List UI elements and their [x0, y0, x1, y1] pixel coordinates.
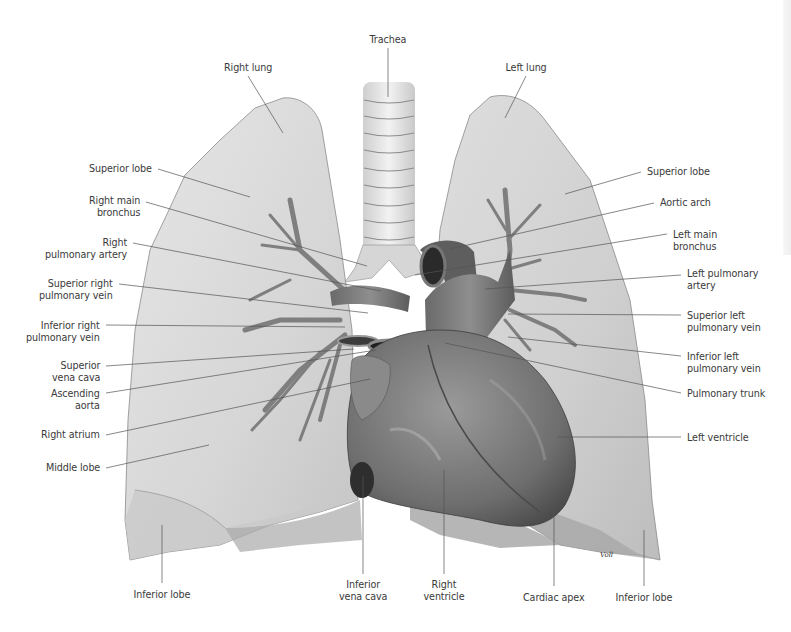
label-line: ventricle — [424, 591, 465, 603]
label-left-lung: Left lung — [506, 62, 547, 74]
anatomy-figure: Voll TracheaRight lungLeft lungSuperior … — [0, 0, 791, 632]
label-superior-left-pulmonary-vein: Superior leftpulmonary vein — [687, 310, 761, 334]
label-line: artery — [687, 280, 758, 292]
label-line: Pulmonary trunk — [687, 388, 765, 400]
label-right-pulmonary-artery: Rightpulmonary artery — [45, 237, 127, 261]
lungs-heart-illustration: Voll — [0, 0, 791, 632]
label-right-atrium: Right atrium — [41, 429, 100, 441]
label-line: Cardiac apex — [523, 592, 585, 604]
label-superior-lobe-right: Superior lobe — [89, 163, 152, 175]
label-line: Aortic arch — [660, 197, 711, 209]
artist-signature: Voll — [600, 551, 613, 559]
label-trachea: Trachea — [370, 34, 407, 46]
label-inferior-lobe-left: Inferior lobe — [616, 592, 673, 604]
label-inferior-lobe-right: Inferior lobe — [134, 589, 191, 601]
label-superior-right-pulmonary-vein: Superior rightpulmonary vein — [39, 278, 113, 302]
label-cardiac-apex: Cardiac apex — [523, 592, 585, 604]
label-line: Superior lobe — [647, 166, 710, 178]
label-line: Middle lobe — [46, 462, 100, 474]
label-inferior-right-pulmonary-vein: Inferior rightpulmonary vein — [26, 320, 100, 344]
label-pulmonary-trunk: Pulmonary trunk — [687, 388, 765, 400]
label-line: Left main — [673, 229, 717, 241]
label-line: Inferior lobe — [134, 589, 191, 601]
label-line: Superior lobe — [89, 163, 152, 175]
label-line: vena cava — [339, 591, 387, 603]
label-line: Superior — [52, 360, 100, 372]
label-line: Right atrium — [41, 429, 100, 441]
label-line: Right main — [89, 195, 140, 207]
label-line: pulmonary vein — [687, 322, 761, 334]
label-line: Left pulmonary — [687, 268, 758, 280]
trachea-shape — [345, 82, 430, 282]
label-line: Left lung — [506, 62, 547, 74]
label-line: Right — [45, 237, 127, 249]
label-line: pulmonary vein — [687, 363, 761, 375]
label-line: Ascending — [51, 388, 100, 400]
label-line: Left ventricle — [687, 432, 749, 444]
label-line: pulmonary artery — [45, 249, 127, 261]
label-aortic-arch: Aortic arch — [660, 197, 711, 209]
label-inferior-vena-cava: Inferiorvena cava — [339, 579, 387, 603]
label-line: Trachea — [370, 34, 407, 46]
label-superior-vena-cava: Superiorvena cava — [52, 360, 100, 384]
page-edge-strip — [783, 0, 791, 255]
label-inferior-left-pulmonary-vein: Inferior leftpulmonary vein — [687, 351, 761, 375]
label-line: bronchus — [89, 207, 140, 219]
label-line: Right lung — [224, 62, 272, 74]
label-left-main-bronchus: Left mainbronchus — [673, 229, 717, 253]
label-line: bronchus — [673, 241, 717, 253]
label-line: Inferior lobe — [616, 592, 673, 604]
label-line: aorta — [51, 400, 100, 412]
right-lung-shape — [125, 98, 362, 560]
label-line: Inferior right — [26, 320, 100, 332]
label-left-ventricle: Left ventricle — [687, 432, 749, 444]
label-ascending-aorta: Ascendingaorta — [51, 388, 100, 412]
label-line: Superior right — [39, 278, 113, 290]
label-line: vena cava — [52, 372, 100, 384]
label-line: Inferior left — [687, 351, 761, 363]
label-right-ventricle: Rightventricle — [424, 579, 465, 603]
label-line: Inferior — [339, 579, 387, 591]
label-line: Superior left — [687, 310, 761, 322]
label-line: Right — [424, 579, 465, 591]
label-middle-lobe: Middle lobe — [46, 462, 100, 474]
label-left-pulmonary-artery: Left pulmonaryartery — [687, 268, 758, 292]
label-line: pulmonary vein — [39, 290, 113, 302]
label-superior-lobe-left: Superior lobe — [647, 166, 710, 178]
label-right-lung: Right lung — [224, 62, 272, 74]
label-right-main-bronchus: Right mainbronchus — [89, 195, 140, 219]
label-line: pulmonary vein — [26, 332, 100, 344]
